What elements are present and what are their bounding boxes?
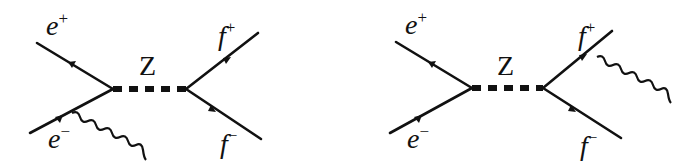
feynman-diagrams-figure: e+ e− Z f+ f− e+ e− [0, 0, 691, 166]
electron-line [390, 88, 472, 133]
positron-line [396, 42, 472, 88]
label-positron: e+ [405, 8, 427, 40]
label-z-boson: Z [497, 50, 514, 81]
photon-wavy-line [597, 56, 671, 103]
label-fermion-minus: f− [220, 126, 237, 159]
label-z-boson: Z [139, 50, 156, 81]
diagram-initial-state-radiation: e+ e− Z f+ f− [30, 9, 261, 160]
photon-wavy-line [72, 112, 146, 160]
diagram-final-state-radiation: e+ e− Z f+ f− [390, 8, 671, 161]
label-fermion-plus: f+ [218, 18, 235, 51]
label-electron: e− [407, 122, 429, 154]
label-fermion-minus: f− [580, 128, 597, 161]
electron-line [30, 89, 113, 133]
label-electron: e− [48, 122, 70, 154]
label-positron: e+ [46, 9, 68, 41]
positron-line [37, 43, 113, 89]
